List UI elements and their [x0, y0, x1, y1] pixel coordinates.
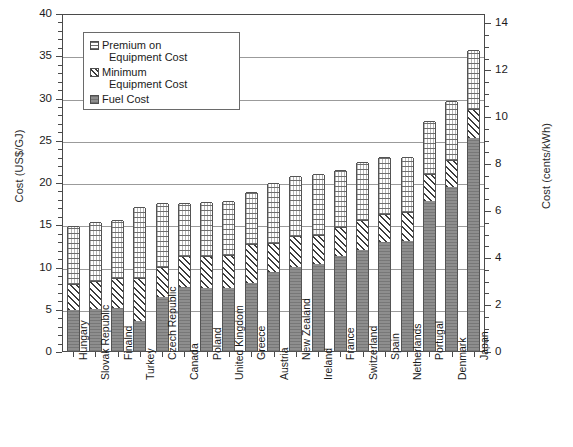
legend-item-premium: Premium on Equipment Cost	[90, 39, 234, 64]
bar-segment-premium	[335, 170, 346, 227]
y-tick-minor-right	[485, 282, 489, 283]
legend-item-minimum: Minimum Equipment Cost	[90, 66, 234, 91]
bar[interactable]	[445, 102, 458, 352]
x-category-label: Finalnd	[122, 326, 134, 360]
y-axis-label-right: Cost (cents/kWh)	[540, 96, 552, 236]
y-tick-major-right	[485, 305, 491, 306]
y-tick-label-right: 2	[495, 298, 535, 310]
bar-segment-minimum-equipment	[246, 244, 257, 283]
bar-segment-premium	[68, 226, 79, 284]
y-tick-minor-right	[485, 59, 489, 60]
x-category-label: France	[344, 327, 356, 360]
x-tick	[474, 352, 475, 357]
y-tick-minor-right	[485, 199, 489, 200]
y-tick-minor-right	[485, 293, 489, 294]
bar-segment-premium	[424, 121, 435, 174]
bar-segment-premium	[246, 192, 257, 244]
bar-segment-premium	[179, 203, 190, 256]
bar-segment-premium	[134, 207, 145, 278]
y-tick-major	[56, 352, 62, 353]
bar-segment-minimum-equipment	[134, 278, 145, 320]
y-tick-minor-right	[485, 152, 489, 153]
y-tick-major-right	[485, 70, 491, 71]
y-tick-minor-right	[485, 47, 489, 48]
bar-segment-premium	[290, 176, 301, 236]
bar-segment-minimum-equipment	[313, 235, 324, 264]
y-tick-label-left: 10	[4, 261, 52, 273]
bar[interactable]	[356, 163, 369, 352]
y-tick-label-left: 25	[4, 134, 52, 146]
chart-legend: Premium on Equipment Cost Minimum Equipm…	[83, 32, 240, 110]
bar-segment-premium	[446, 101, 457, 160]
x-category-label: Japan	[478, 331, 490, 360]
bar[interactable]	[423, 122, 436, 352]
x-category-label: Greece	[255, 326, 267, 360]
y-tick-label-left: 15	[4, 218, 52, 230]
legend-label-fuel: Fuel Cost	[102, 93, 149, 105]
y-tick-minor-right	[485, 223, 489, 224]
x-tick	[118, 352, 119, 357]
y-tick-minor-right	[485, 94, 489, 95]
x-category-label: Poland	[211, 327, 223, 360]
bar[interactable]	[467, 51, 480, 352]
bar[interactable]	[378, 158, 391, 352]
bar[interactable]	[133, 208, 146, 352]
x-tick	[340, 352, 341, 357]
bar[interactable]	[178, 204, 191, 352]
x-category-label: Ireland	[322, 348, 334, 380]
bar-segment-fuel	[446, 187, 457, 351]
bar-segment-minimum-equipment	[223, 255, 234, 289]
bar-segment-fuel	[313, 264, 324, 351]
y-tick-label-right: 10	[495, 110, 535, 122]
y-tick-label-left: 35	[4, 49, 52, 61]
y-tick-minor-right	[485, 317, 489, 318]
y-tick-label-left: 0	[4, 345, 52, 357]
y-tick-label-left: 30	[4, 92, 52, 104]
bar[interactable]	[334, 171, 347, 352]
x-tick	[429, 352, 430, 357]
x-tick	[140, 352, 141, 357]
legend-swatch-minimum-icon	[90, 68, 99, 77]
y-tick-major-right	[485, 117, 491, 118]
y-tick-minor-right	[485, 270, 489, 271]
bar-segment-fuel	[468, 138, 479, 351]
bar-segment-premium	[313, 174, 324, 235]
x-tick	[296, 352, 297, 357]
y-tick-major-right	[485, 164, 491, 165]
x-tick	[207, 352, 208, 357]
legend-swatch-premium-icon	[90, 41, 99, 50]
bar-segment-premium	[157, 203, 168, 267]
x-tick	[363, 352, 364, 357]
x-category-label: New Zealand	[300, 298, 312, 360]
x-category-label: Spain	[389, 333, 401, 360]
y-tick-label-left: 20	[4, 176, 52, 188]
bar-segment-minimum-equipment	[268, 243, 279, 273]
bar-segment-premium	[90, 222, 101, 281]
x-tick	[318, 352, 319, 357]
legend-label-premium: Premium on Equipment Cost	[102, 39, 187, 64]
bar-segment-minimum-equipment	[201, 256, 212, 287]
x-tick	[95, 352, 96, 357]
y-axis-label-left: Cost (US$/GJ)	[13, 106, 25, 226]
y-tick-minor-right	[485, 235, 489, 236]
x-tick	[184, 352, 185, 357]
bar-segment-minimum-equipment	[179, 256, 190, 286]
y-tick-minor-right	[485, 35, 489, 36]
x-tick	[452, 352, 453, 357]
bar-segment-minimum-equipment	[446, 160, 457, 187]
legend-label-minimum: Minimum Equipment Cost	[102, 66, 187, 91]
y-tick-minor-right	[485, 329, 489, 330]
bar[interactable]	[312, 175, 325, 352]
bar-segment-fuel	[268, 272, 279, 351]
y-tick-minor-right	[485, 246, 489, 247]
bar-segment-premium	[402, 157, 413, 213]
x-category-label: Turkey	[144, 348, 156, 380]
y-tick-label-right: 14	[495, 16, 535, 28]
x-tick	[162, 352, 163, 357]
y-tick-label-left: 5	[4, 303, 52, 315]
bar[interactable]	[267, 184, 280, 352]
y-tick-major-right	[485, 258, 491, 259]
legend-item-fuel: Fuel Cost	[90, 93, 234, 105]
x-category-label: Hungary	[77, 320, 89, 360]
x-category-label: Denmark	[456, 337, 468, 380]
